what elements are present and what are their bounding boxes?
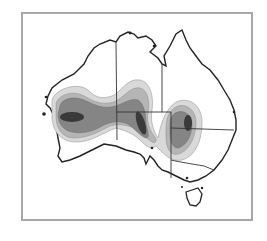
australia-map bbox=[0, 0, 267, 241]
marker-north-2 bbox=[153, 45, 156, 48]
marker-west-1 bbox=[45, 96, 48, 99]
marker-south-1 bbox=[151, 147, 154, 150]
marker-south-4 bbox=[201, 187, 203, 189]
marker-west-2 bbox=[42, 112, 46, 116]
tasmania bbox=[186, 188, 202, 206]
western-australia-hotspot bbox=[60, 112, 84, 122]
marker-south-2 bbox=[186, 177, 189, 180]
marker-north-1 bbox=[129, 32, 132, 35]
marker-east bbox=[233, 111, 236, 114]
marker-south-3 bbox=[181, 186, 183, 188]
